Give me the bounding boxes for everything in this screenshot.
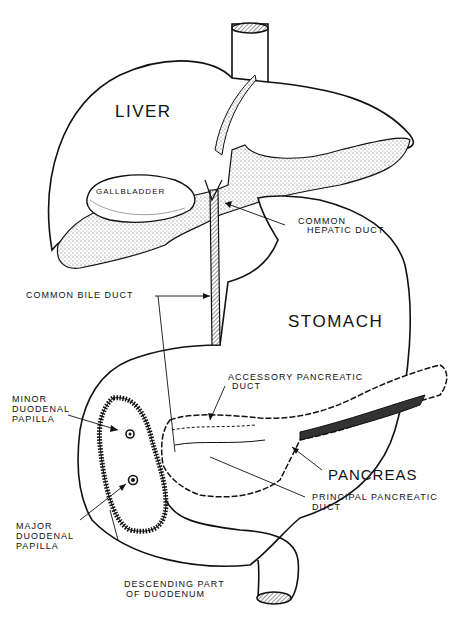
label-major-papilla-3: PAPILLA — [16, 542, 59, 551]
label-common-bile-duct: COMMON BILE DUCT — [26, 291, 134, 300]
label-common-hepatic-duct-2: HEPATIC DUCT — [307, 226, 384, 235]
label-stomach: STOMACH — [288, 313, 383, 331]
vessel-tube — [232, 23, 268, 84]
label-pancreas: PANCREAS — [328, 467, 417, 483]
label-gallbladder: GALLBLADDER — [96, 188, 165, 196]
label-accessory-pancreatic-duct-2: DUCT — [232, 382, 261, 391]
label-principal-pancreatic-duct-2: DUCT — [312, 503, 341, 512]
label-liver: LIVER — [115, 103, 172, 121]
gallbladder — [87, 175, 195, 222]
label-minor-papilla-3: PAPILLA — [12, 415, 55, 424]
anatomy-drawing — [0, 0, 467, 622]
label-descending-duodenum-2: OF DUODENUM — [126, 590, 205, 599]
